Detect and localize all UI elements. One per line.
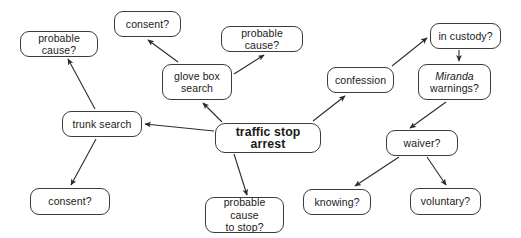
node-probable-cause-to-stop[interactable]: probable cause to stop? (205, 197, 284, 233)
edge-arrest-trunk (145, 124, 214, 131)
edge-arrest-confession (313, 96, 345, 121)
node-label-in-custody: in custody? (436, 30, 495, 43)
node-in-custody[interactable]: in custody? (430, 23, 501, 49)
edge-glovebox-probable-cause (234, 55, 264, 74)
edge-waiver-knowing (355, 157, 399, 186)
node-label-consent-glovebox: consent? (120, 18, 175, 31)
node-label-traffic-stop-arrest: traffic stop arrest (221, 126, 315, 151)
italic-term: Miranda (435, 70, 474, 82)
node-glove-box-search[interactable]: glove box search (162, 64, 232, 100)
node-label-probable-cause-glovebox: probable cause? (227, 27, 297, 52)
node-consent-trunk[interactable]: consent? (30, 188, 110, 215)
node-probable-cause-trunk[interactable]: probable cause? (20, 31, 98, 57)
concept-map-canvas: probable cause?consent?probable cause?gl… (0, 0, 521, 238)
node-waiver[interactable]: waiver? (386, 130, 458, 156)
node-label-confession: confession (333, 74, 388, 87)
node-label-voluntary: voluntary? (416, 195, 475, 208)
node-miranda-warnings[interactable]: Miranda warnings? (418, 64, 491, 100)
node-trunk-search[interactable]: trunk search (62, 111, 142, 137)
edge-glovebox-consent (148, 40, 178, 62)
node-voluntary[interactable]: voluntary? (410, 188, 481, 215)
edge-waiver-voluntary (427, 157, 446, 185)
node-probable-cause-glovebox[interactable]: probable cause? (221, 26, 303, 52)
node-label-probable-cause-trunk: probable cause? (26, 32, 92, 57)
node-label-glove-box-search: glove box search (168, 70, 226, 95)
node-confession[interactable]: confession (327, 67, 394, 93)
node-label-waiver: waiver? (392, 137, 452, 150)
edge-arrest-glovebox (203, 103, 222, 122)
node-label-consent-trunk: consent? (36, 195, 104, 208)
edge-trunk-consent (71, 139, 96, 185)
node-label-trunk-search: trunk search (68, 118, 136, 131)
node-knowing[interactable]: knowing? (303, 189, 371, 215)
edge-arrest-probable-cause-stop (234, 154, 247, 195)
edge-confession-in-custody (392, 38, 427, 66)
node-consent-glovebox[interactable]: consent? (114, 11, 181, 37)
edge-miranda-waiver (410, 102, 446, 128)
edge-trunk-probable-cause (68, 59, 95, 109)
node-label-probable-cause-to-stop: probable cause to stop? (211, 196, 278, 234)
node-label-miranda-warnings: Miranda warnings? (424, 70, 485, 95)
node-label-knowing: knowing? (309, 196, 365, 209)
node-traffic-stop-arrest[interactable]: traffic stop arrest (215, 123, 321, 153)
